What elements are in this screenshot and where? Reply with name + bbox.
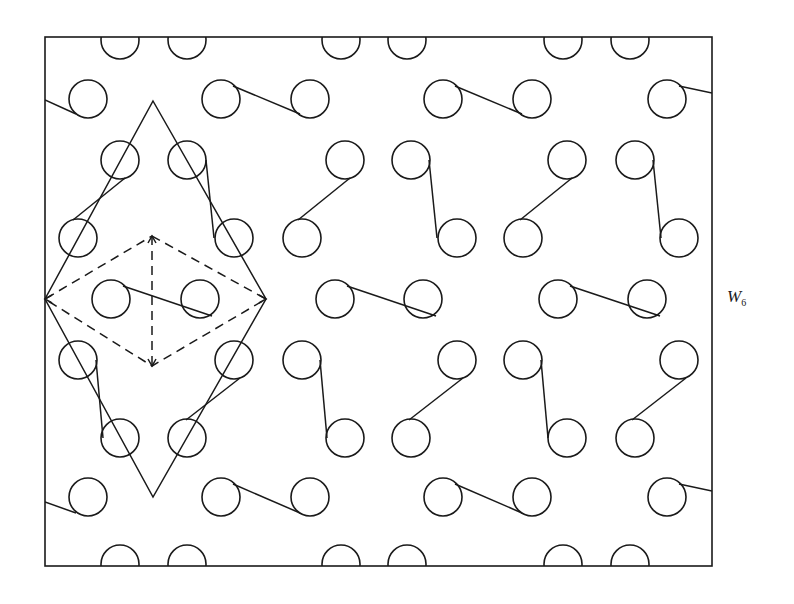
motif-circle <box>616 141 654 179</box>
motif-circle <box>291 478 329 516</box>
motif-circle <box>322 545 360 583</box>
group-label-w6: W6 <box>727 287 746 308</box>
motif-connector <box>653 160 661 238</box>
motif-circle <box>283 341 321 379</box>
motif-connector <box>429 160 437 238</box>
motif-circle <box>322 21 360 59</box>
motif-circle <box>326 419 364 457</box>
motif-circle <box>438 341 476 379</box>
motif-circle <box>168 21 206 59</box>
motif-circle <box>392 419 430 457</box>
motif-circle <box>544 545 582 583</box>
motif-circle <box>388 545 426 583</box>
dashed-unit-cell-diamond <box>45 236 266 366</box>
motif-circle <box>611 21 649 59</box>
motif-circle <box>388 21 426 59</box>
motif-circle <box>504 341 542 379</box>
motif-circle <box>215 219 253 257</box>
motif-circle <box>548 141 586 179</box>
connector-lines <box>45 86 712 513</box>
motif-circle <box>616 419 654 457</box>
motif-connector <box>455 86 522 114</box>
motif-circle <box>69 80 107 118</box>
motif-circle <box>424 80 462 118</box>
motif-connector <box>320 360 327 438</box>
wallpaper-pattern-figure <box>0 0 794 604</box>
motif-connector <box>347 286 436 316</box>
motif-circle <box>326 141 364 179</box>
motif-circle <box>660 219 698 257</box>
motif-connector <box>206 160 214 238</box>
motif-circle <box>69 478 107 516</box>
motif-connector <box>233 86 300 114</box>
label-main: W <box>727 287 741 306</box>
motif-connector <box>409 378 463 420</box>
motif-circle <box>611 545 649 583</box>
motif-circle <box>504 219 542 257</box>
motif-connector <box>632 378 686 420</box>
motif-circle <box>544 21 582 59</box>
motif-circle <box>392 141 430 179</box>
motif-connector <box>233 484 300 513</box>
motif-circle <box>101 21 139 59</box>
motif-circle <box>424 478 462 516</box>
motif-circle <box>548 419 586 457</box>
motif-circle <box>513 478 551 516</box>
motif-connector <box>298 178 350 220</box>
motif-circle <box>660 341 698 379</box>
motif-connector <box>520 178 572 220</box>
motif-circle <box>202 478 240 516</box>
motif-connector <box>570 286 660 316</box>
motif-circle <box>438 219 476 257</box>
motif-circle <box>168 545 206 583</box>
label-subscript: 6 <box>741 297 746 308</box>
motif-circle <box>283 219 321 257</box>
motif-circle <box>202 80 240 118</box>
motif-connector <box>186 378 240 420</box>
motif-connector <box>455 484 522 513</box>
motif-connector <box>541 360 548 438</box>
solid-unit-cell-diamond <box>45 101 266 497</box>
unit-cell-overlay <box>45 101 266 497</box>
motif-connector <box>123 286 212 316</box>
motif-circle <box>101 545 139 583</box>
motif-circle <box>215 341 253 379</box>
